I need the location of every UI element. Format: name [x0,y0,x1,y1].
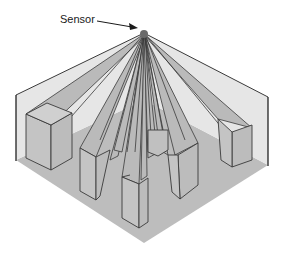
sensor-icon [140,30,148,38]
sensor-label: Sensor [60,13,95,25]
sensor-arrow [97,21,138,30]
obstacle-far-left [26,103,72,170]
obstacle-center [122,175,148,228]
sensor-coverage-diagram [0,0,284,257]
obstacle-center-back [148,130,168,156]
